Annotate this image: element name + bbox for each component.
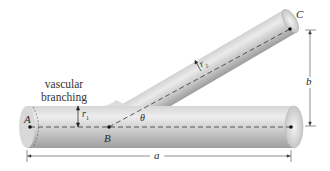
label-theta: θ <box>140 113 145 123</box>
label-point-b: B <box>104 133 111 144</box>
label-point-c: C <box>296 9 303 20</box>
label-point-a: A <box>24 114 31 125</box>
diagram-caption: vascular branching <box>35 78 93 104</box>
caption-line-2: branching <box>35 91 93 104</box>
label-dimension-b: b <box>306 76 312 87</box>
point-a-marker <box>28 125 32 129</box>
label-dimension-a: a <box>154 150 160 161</box>
point-c-marker <box>288 27 292 31</box>
label-r1: r1 <box>82 109 89 121</box>
caption-line-1: vascular <box>35 78 93 91</box>
point-b-marker <box>107 125 111 129</box>
r1-subscript: 1 <box>86 115 89 121</box>
main-end-marker <box>289 125 293 129</box>
